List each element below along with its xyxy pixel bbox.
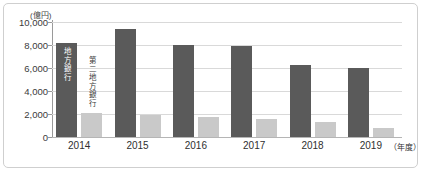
bar-2019-chiho-ginko [348, 68, 369, 137]
x-tick-label-2018: 2018 [301, 140, 323, 151]
plot-area: 地方銀行第二地方銀行 [52, 22, 402, 137]
y-tick-mark-0 [48, 137, 52, 138]
y-tick-mark-2000 [48, 114, 52, 115]
y-tick-mark-8000 [48, 45, 52, 46]
series-label-chiho-ginko: 地方銀行 [63, 47, 71, 81]
bar-2017-chiho-ginko [231, 46, 252, 137]
bar-2016-dai2-chiho-ginko [198, 117, 219, 137]
bar-2018-chiho-ginko [290, 65, 311, 137]
bar-2015-chiho-ginko [115, 29, 136, 137]
chart-figure: (億円) 02,0004,0006,0008,00010,000 地方銀行第二地… [0, 0, 421, 171]
bar-2018-dai2-chiho-ginko [315, 122, 336, 137]
bar-2017-dai2-chiho-ginko [256, 119, 277, 137]
y-tick-mark-4000 [48, 91, 52, 92]
y-tick-label-6000: 6,000 [2, 63, 48, 74]
bar-2016-chiho-ginko [173, 45, 194, 137]
x-tick-label-2015: 2015 [126, 140, 148, 151]
gridline-10000 [52, 22, 402, 23]
y-tick-label-4000: 4,000 [2, 86, 48, 97]
y-tick-mark-10000 [48, 22, 52, 23]
y-tick-mark-6000 [48, 68, 52, 69]
y-tick-label-8000: 8,000 [2, 40, 48, 51]
x-axis-unit-label: （年度） [389, 141, 421, 152]
bar-2019-dai2-chiho-ginko [373, 128, 394, 137]
gridline-8000 [52, 45, 402, 46]
x-tick-label-2019: 2019 [360, 140, 382, 151]
gridline-0 [52, 137, 402, 138]
y-tick-label-10000: 10,000 [2, 17, 48, 28]
x-tick-label-2016: 2016 [185, 140, 207, 151]
y-axis-tick-labels: 02,0004,0006,0008,00010,000 [0, 0, 48, 171]
bar-2014-dai2-chiho-ginko [81, 113, 102, 137]
bar-2015-dai2-chiho-ginko [140, 115, 161, 137]
series-label-dai2-chiho-ginko: 第二地方銀行 [88, 56, 96, 107]
x-tick-label-2017: 2017 [243, 140, 265, 151]
y-tick-label-2000: 2,000 [2, 109, 48, 120]
x-tick-label-2014: 2014 [68, 140, 90, 151]
y-tick-label-0: 0 [2, 132, 48, 143]
